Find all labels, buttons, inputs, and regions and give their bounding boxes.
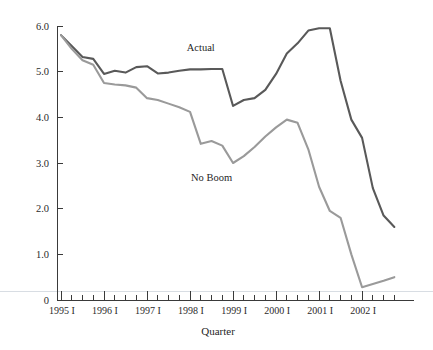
- x-axis-tick-label: 2002 I: [350, 305, 376, 316]
- y-axis-tick-label: 4.0: [36, 112, 49, 123]
- x-axis-tick-label: 2000 I: [264, 305, 290, 316]
- series-label-actual: Actual: [187, 42, 215, 53]
- y-axis-tick-label: 1.0: [36, 249, 49, 260]
- x-axis-tick-label: 1998 I: [178, 305, 204, 316]
- y-axis-tick-label: 3.0: [36, 158, 49, 169]
- x-axis-tick-label: 1997 I: [135, 305, 161, 316]
- series-label-no-boom: No Boom: [191, 172, 232, 183]
- line-chart: 01.02.03.04.05.06.0 1995 I1996 I1997 I19…: [0, 0, 433, 350]
- x-axis-tick-label: 1999 I: [221, 305, 247, 316]
- y-axis-tick-label: 2.0: [36, 203, 49, 214]
- x-axis-title: Quarter: [201, 325, 235, 337]
- chart-container: 01.02.03.04.05.06.0 1995 I1996 I1997 I19…: [0, 0, 433, 350]
- y-axis-tick-label: 5.0: [36, 66, 49, 77]
- y-axis-tick-label: 0: [44, 295, 49, 306]
- y-axis-tick-label: 6.0: [36, 21, 49, 32]
- x-axis-tick-label: 1996 I: [92, 305, 118, 316]
- x-axis-tick-label: 1995 I: [49, 305, 75, 316]
- x-axis-tick-label: 2001 I: [307, 305, 333, 316]
